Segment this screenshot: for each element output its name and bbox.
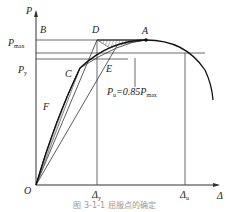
svg-text:C: C xyxy=(65,68,72,79)
svg-text:A: A xyxy=(141,25,149,36)
svg-text:F: F xyxy=(42,101,50,112)
svg-text:D: D xyxy=(91,24,100,35)
point-a-marker xyxy=(144,38,148,42)
y-arrow-icon xyxy=(34,10,38,17)
svg-text:Py: Py xyxy=(17,64,27,76)
figure-caption: 图 3-1-1 屈服点的确定 xyxy=(0,199,229,210)
svg-text:B: B xyxy=(40,24,46,35)
svg-text:E: E xyxy=(105,63,112,74)
svg-text:Pmax: Pmax xyxy=(7,37,24,49)
svg-text:O: O xyxy=(24,185,31,196)
svg-text:Pu=0.85Pmax: Pu=0.85Pmax xyxy=(106,86,157,98)
yield-point-diagram: P O Δ Pmax Py Δy Δu A B C D E F Pu=0.85P… xyxy=(0,0,229,212)
x-arrow-icon xyxy=(213,183,220,187)
svg-text:P: P xyxy=(25,5,32,16)
